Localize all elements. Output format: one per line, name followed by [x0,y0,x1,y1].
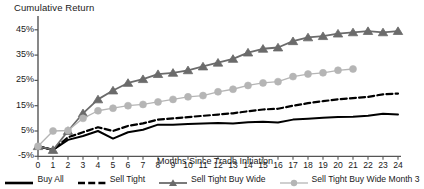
legend-item-1: Sell Tight [77,174,145,184]
y-tick-label: 15% [0,100,34,110]
chart-legend: Buy AllSell TightSell Tight Buy WideSell… [0,170,424,188]
legend-label: Sell Tight [110,174,145,184]
legend-item-3: Sell Tight Buy Wide Month 3 [279,174,420,184]
y-tick-label: -5% [0,150,34,160]
chart-figure: Cumulative Return -5%5%15%25%35%45% 0123… [0,0,424,189]
legend-swatch-icon [279,174,309,184]
y-tick-label: 5% [0,125,34,135]
y-tick-label: 35% [0,49,34,59]
legend-item-0: Buy All [4,174,63,184]
legend-item-2: Sell Tight Buy Wide [158,174,266,184]
legend-swatch-icon [4,174,34,184]
legend-swatch-icon [77,174,107,184]
series-buy-all [38,114,398,150]
legend-label: Sell Tight Buy Wide [191,174,266,184]
legend-label: Buy All [37,174,63,184]
x-tick-label: 24 [388,160,408,170]
legend-swatch-icon [158,174,188,184]
y-tick-label: 25% [0,74,34,84]
x-axis-title: Months Since Trade Initiation [120,156,310,166]
series-sell-tight [38,94,398,150]
legend-label: Sell Tight Buy Wide Month 3 [312,174,420,184]
y-tick-label: 45% [0,24,34,34]
